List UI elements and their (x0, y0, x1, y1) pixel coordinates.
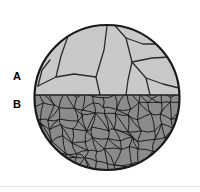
grain-boundary (170, 160, 185, 164)
grain-boundary (56, 158, 66, 159)
grain-boundary (38, 154, 39, 159)
grain-boundary (184, 164, 186, 170)
grain-boundary (140, 176, 143, 185)
grain-boundary (29, 168, 42, 183)
grain-boundary (152, 170, 165, 173)
grain-boundary (52, 172, 66, 176)
grain-boundary (138, 163, 140, 176)
micrograph-circle (0, 0, 200, 192)
figure-root: A B (0, 0, 200, 192)
grain-boundary (187, 118, 188, 125)
grain-boundary (163, 151, 166, 157)
grain-boundary (163, 181, 174, 183)
grain-boundary (170, 149, 176, 160)
grain-boundary (163, 169, 169, 181)
grain-boundary (169, 160, 170, 169)
grain-boundary (187, 105, 188, 118)
grain-boundary (140, 176, 151, 184)
grain-boundary (42, 158, 56, 169)
grain-boundary (96, 175, 98, 180)
region-a-group (28, 18, 186, 95)
grain-boundary (27, 135, 31, 147)
grain-boundary (29, 168, 42, 170)
grain-boundary (175, 136, 177, 149)
grain-boundary (151, 181, 163, 185)
grain-boundary (74, 170, 89, 173)
grain-boundary (38, 139, 41, 154)
grain-boundary (148, 158, 163, 160)
grain-boundary (177, 136, 186, 140)
grain-boundary (39, 159, 42, 170)
grain-boundary (52, 172, 64, 186)
grain-boundary (129, 168, 132, 181)
grain-boundary (66, 173, 74, 176)
grain-boundary (96, 172, 108, 175)
grain-boundary (29, 131, 31, 135)
grain-boundary (151, 170, 165, 184)
grain-boundary (49, 151, 56, 158)
grain-boundary (28, 94, 30, 108)
grain-boundary (176, 146, 186, 149)
grain-boundary (30, 135, 41, 139)
grain-boundary (28, 160, 29, 168)
grain-boundary (38, 151, 49, 153)
grain-boundary (59, 108, 74, 109)
grain-boundary (74, 173, 76, 184)
grain-boundary (98, 179, 107, 181)
grain-boundary (140, 174, 152, 177)
grain-boundary (116, 170, 129, 182)
grain-boundary (174, 125, 187, 128)
grain-boundary (42, 170, 52, 173)
grain-boundary (87, 179, 98, 181)
grain-boundary (52, 160, 65, 173)
grain-boundary (148, 160, 153, 174)
grain-boundary (76, 154, 77, 158)
grain-boundary (28, 108, 30, 118)
grain-boundary (184, 92, 187, 105)
grain-boundary (138, 149, 139, 163)
grain-boundary (29, 118, 31, 130)
grain-boundary (107, 181, 117, 184)
grain-boundary (76, 181, 87, 184)
grain-boundary (129, 182, 143, 186)
grain-boundary (170, 97, 171, 102)
region-label-b: B (13, 99, 21, 110)
grain-boundary (30, 159, 39, 161)
bottom-divider (0, 186, 200, 187)
grain-boundary (169, 169, 174, 182)
grain-boundary (107, 172, 109, 182)
grain-boundary (163, 158, 170, 161)
grain-boundary (116, 182, 129, 184)
grain-boundary (163, 158, 166, 171)
grain-boundary (27, 147, 38, 154)
grain-boundary (89, 170, 96, 175)
grain-boundary (184, 170, 188, 182)
grain-boundary (29, 131, 40, 139)
region-b-group (27, 90, 188, 186)
grain-boundary (49, 172, 52, 181)
grain-boundary (186, 125, 187, 139)
grain-boundary (116, 170, 117, 184)
grain-boundary (163, 170, 166, 180)
region-label-a: A (13, 71, 21, 82)
grain-boundary (87, 170, 89, 181)
grain-boundary (169, 169, 184, 171)
grain-boundary (29, 168, 31, 183)
grain-boundary (174, 129, 177, 136)
grain-boundary (27, 147, 30, 160)
grain-boundary (52, 158, 56, 172)
grain-boundary (166, 169, 169, 170)
grain-boundary (166, 149, 176, 151)
grain-boundary (30, 160, 43, 170)
grain-boundary (42, 182, 49, 183)
grain-boundary (132, 168, 140, 176)
grain-boundary (185, 146, 186, 164)
grain-boundary (39, 158, 56, 159)
grain-boundary (151, 174, 152, 185)
